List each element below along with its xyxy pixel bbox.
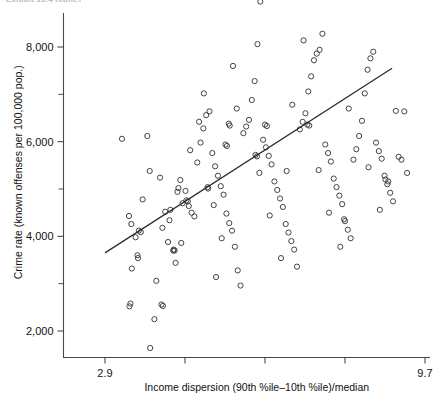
- data-point: [224, 211, 229, 216]
- y-axis-ticks: 2,0004,0006,0008,000: [26, 41, 64, 337]
- data-point: [317, 47, 322, 52]
- data-point: [275, 187, 280, 192]
- data-point: [283, 221, 288, 226]
- data-point: [340, 202, 345, 207]
- data-point: [133, 235, 138, 240]
- data-point: [325, 150, 330, 155]
- data-point: [357, 133, 362, 138]
- data-point: [201, 126, 206, 131]
- data-point: [292, 247, 297, 252]
- y-tick-label-6: 8,000: [26, 41, 54, 53]
- data-point: [201, 91, 206, 96]
- data-point: [195, 160, 200, 165]
- data-point: [213, 274, 218, 279]
- data-point: [307, 123, 312, 128]
- data-point: [221, 192, 226, 197]
- data-point: [351, 157, 356, 162]
- x-tick-label-0: 2.9: [97, 367, 112, 379]
- data-point: [277, 196, 282, 201]
- data-point: [249, 97, 254, 102]
- axis-labels-layer: Income dispersion (90th %ile–10th %ile)/…: [12, 65, 369, 393]
- data-point: [365, 67, 370, 72]
- data-point: [160, 225, 165, 230]
- data-point: [234, 106, 239, 111]
- data-points-layer: [119, 0, 409, 351]
- data-point: [359, 118, 364, 123]
- data-point: [289, 238, 294, 243]
- data-point: [230, 63, 235, 68]
- data-point: [192, 214, 197, 219]
- data-point: [213, 164, 218, 169]
- data-point: [224, 143, 229, 148]
- data-point: [219, 236, 224, 241]
- data-point: [341, 217, 346, 222]
- regression-line-layer: [105, 68, 392, 253]
- data-point: [154, 278, 159, 283]
- data-point: [211, 202, 216, 207]
- y-tick-label-0: 2,000: [26, 325, 54, 337]
- data-point: [152, 317, 157, 322]
- plot-frame: [63, 13, 430, 358]
- data-point: [129, 221, 134, 226]
- data-point: [338, 244, 343, 249]
- data-point: [229, 228, 234, 233]
- data-point: [303, 111, 308, 116]
- data-point: [331, 176, 336, 181]
- data-point: [366, 165, 371, 170]
- data-point: [257, 170, 262, 175]
- data-point: [140, 197, 145, 202]
- data-point: [165, 239, 170, 244]
- data-point: [215, 173, 220, 178]
- data-point: [354, 147, 359, 152]
- x-axis-ticks: 2.99.7: [97, 358, 432, 379]
- data-point: [227, 123, 232, 128]
- data-point: [345, 227, 350, 232]
- data-point: [227, 220, 232, 225]
- data-point: [167, 218, 172, 223]
- x-tick-label-4: 9.7: [417, 367, 432, 379]
- data-point: [197, 119, 202, 124]
- regression-line: [105, 68, 392, 253]
- data-point: [402, 109, 407, 114]
- data-point: [373, 140, 378, 145]
- data-point: [261, 137, 266, 142]
- data-point: [269, 162, 274, 167]
- data-point: [286, 230, 291, 235]
- data-point: [309, 74, 314, 79]
- data-point: [278, 256, 283, 261]
- data-point: [235, 268, 240, 273]
- data-point: [179, 240, 184, 245]
- data-point: [126, 213, 131, 218]
- data-point: [246, 117, 251, 122]
- data-point: [210, 150, 215, 155]
- data-point: [376, 149, 381, 154]
- data-point: [188, 148, 193, 153]
- data-point: [255, 42, 260, 47]
- data-point: [223, 142, 228, 147]
- x-axis-title: Income dispersion (90th %ile–10th %ile)/…: [144, 381, 369, 393]
- data-point: [393, 108, 398, 113]
- data-point: [334, 185, 339, 190]
- y-axis-title: Crime rate (known offenses per 100,000 p…: [12, 65, 24, 279]
- data-point: [311, 58, 316, 63]
- data-point: [238, 283, 243, 288]
- data-point: [207, 109, 212, 114]
- data-point: [241, 131, 246, 136]
- data-point: [232, 244, 237, 249]
- data-point: [346, 106, 351, 111]
- data-point: [306, 89, 311, 94]
- data-point: [272, 179, 277, 184]
- data-point: [326, 210, 331, 215]
- data-point: [280, 204, 285, 209]
- data-point: [145, 133, 150, 138]
- data-point: [320, 31, 325, 36]
- data-point: [348, 236, 353, 241]
- data-point: [148, 345, 153, 350]
- data-point: [173, 260, 178, 265]
- data-point: [252, 78, 257, 83]
- data-point: [183, 188, 188, 193]
- data-point: [160, 303, 165, 308]
- y-tick-label-2: 4,000: [26, 230, 54, 242]
- data-point: [147, 168, 152, 173]
- data-point: [405, 170, 410, 175]
